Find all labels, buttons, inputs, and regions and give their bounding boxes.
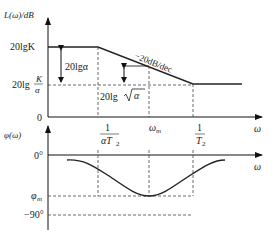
sqrt-prefix: 20lg (100, 91, 118, 102)
level-low-num: K (35, 74, 43, 84)
magnitude-y-label: L(ω)/dB (3, 10, 34, 20)
phase-x-label: ω (254, 161, 261, 172)
bode-diagram: L(ω)/dB ω 0 20lgK 20lg K α 20lgα −20dB/d… (0, 0, 275, 242)
level-high-label: 20lgK (10, 41, 36, 52)
phase-y-label: φ(ω) (4, 130, 21, 140)
magnitude-plot: L(ω)/dB ω 0 20lgK 20lg K α 20lgα −20dB/d… (3, 10, 262, 148)
break1-den: αT (101, 135, 113, 146)
minus90-label: −90° (24, 209, 44, 220)
phase-plot: φ(ω) ω 0° φ m −90° (4, 126, 262, 230)
break1-sub: 2 (116, 140, 120, 148)
wm-sub: m (156, 127, 161, 135)
phim-sub: m (37, 195, 42, 203)
level-low-prefix: 20lg (12, 79, 30, 90)
zero-deg-label: 0° (34, 150, 43, 161)
phase-curve (67, 160, 225, 196)
break2-num: 1 (197, 122, 202, 133)
level-low-den: α (35, 85, 40, 95)
break2-sub: 2 (202, 140, 206, 148)
gap-label: 20lgα (65, 61, 89, 72)
magnitude-x-label: ω (254, 123, 261, 134)
wm-label: ω (149, 122, 156, 133)
sqrt-arg: α (134, 90, 140, 101)
break1-num: 1 (105, 122, 110, 133)
origin-label: 0 (37, 112, 42, 123)
